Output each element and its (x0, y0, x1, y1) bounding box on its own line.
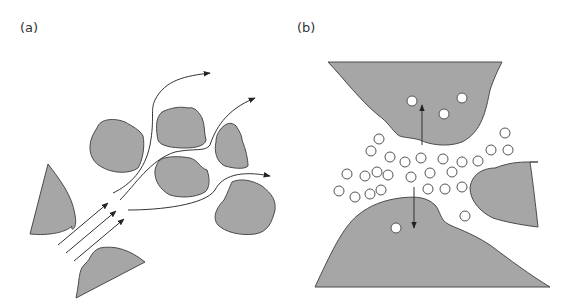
particle (438, 154, 448, 164)
particle (366, 146, 376, 156)
particle (400, 157, 410, 167)
grain (155, 157, 209, 197)
particle (503, 145, 513, 155)
particle (334, 186, 344, 196)
particle (473, 156, 483, 166)
grain (215, 180, 275, 235)
particle (423, 184, 433, 194)
particle (374, 134, 384, 144)
grain (470, 162, 538, 227)
particle (350, 192, 360, 202)
particle (425, 168, 435, 178)
panel-b (315, 62, 550, 287)
particle (460, 211, 470, 221)
particle (391, 223, 401, 233)
particle (383, 170, 393, 180)
grain (157, 107, 206, 148)
particle (365, 189, 375, 199)
particle (372, 167, 382, 177)
particle (486, 145, 496, 155)
particle (376, 185, 386, 195)
grain (76, 247, 145, 298)
particle (457, 182, 467, 192)
diagram-canvas (0, 0, 571, 305)
particle (440, 184, 450, 194)
particle (500, 128, 510, 138)
panel-a (30, 73, 275, 298)
grain (215, 123, 248, 168)
particle (457, 93, 467, 103)
grain (90, 120, 144, 173)
particle (342, 169, 352, 179)
particle (457, 157, 467, 167)
grain (30, 164, 76, 235)
particle (447, 167, 457, 177)
particle (407, 96, 417, 106)
particle (360, 171, 370, 181)
particle (416, 153, 426, 163)
particle (439, 109, 449, 119)
particle (385, 152, 395, 162)
particle (406, 172, 416, 182)
